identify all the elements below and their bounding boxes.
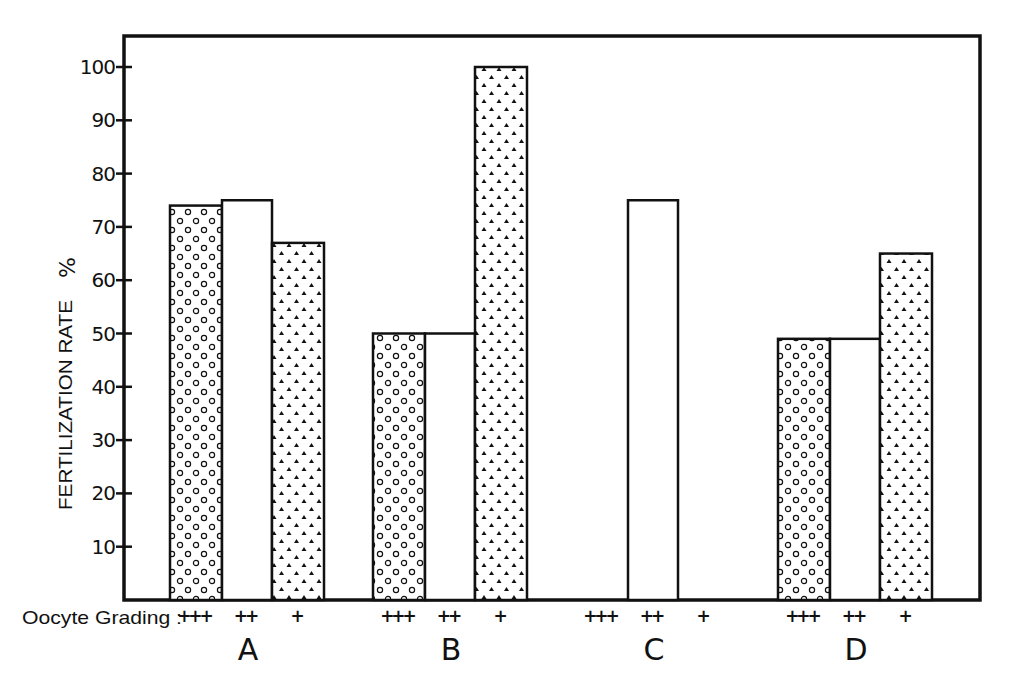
- grade-label: ++: [842, 606, 866, 626]
- x-axis-prefix: Oocyte Grading :: [22, 607, 182, 628]
- y-axis-label: FERTILIZATION RATE%: [55, 257, 80, 510]
- y-tick-label: 60: [92, 268, 116, 292]
- grade-label: +++: [583, 606, 618, 626]
- bar-d-circles: [778, 339, 830, 600]
- grade-label: +: [696, 606, 709, 626]
- bar-a-triangles: [272, 243, 324, 600]
- y-axis-unit: %: [55, 257, 80, 278]
- y-tick-label: 20: [92, 481, 116, 505]
- grade-label: +++: [380, 606, 415, 626]
- grade-label: +++: [177, 606, 212, 626]
- bars: [170, 67, 932, 600]
- y-tick-label: 30: [92, 428, 116, 452]
- bar-a-circles: [170, 206, 222, 600]
- y-tick-label: 70: [92, 215, 116, 239]
- bar-c-blank: [628, 200, 678, 600]
- group-label-c: C: [644, 632, 665, 667]
- y-tick-label: 50: [92, 322, 116, 346]
- y-tick-label: 40: [92, 375, 116, 399]
- grade-label: ++: [437, 606, 461, 626]
- y-tick-label: 10: [92, 535, 116, 559]
- y-tick-label: 100: [80, 55, 115, 79]
- group-label-d: D: [844, 632, 867, 667]
- bar-d-blank: [830, 339, 880, 600]
- bar-b-blank: [425, 334, 475, 601]
- grade-label: +: [290, 606, 303, 626]
- x-axis-labels: Oocyte Grading :++++++A++++++B++++++C+++…: [22, 606, 911, 667]
- bar-b-triangles: [475, 67, 527, 600]
- bar-d-triangles: [880, 254, 932, 600]
- grade-label: +: [898, 606, 911, 626]
- grade-label: ++: [640, 606, 664, 626]
- grade-label: +: [493, 606, 506, 626]
- bar-b-circles: [373, 334, 425, 601]
- group-label-b: B: [441, 632, 462, 667]
- grade-label: ++: [234, 606, 258, 626]
- grade-label: +++: [785, 606, 820, 626]
- bar-a-blank: [222, 200, 272, 600]
- group-label-a: A: [238, 632, 259, 667]
- bar-chart: 102030405060708090100 Oocyte Grading :++…: [0, 0, 1011, 700]
- y-tick-label: 80: [92, 162, 116, 186]
- y-axis-title: FERTILIZATION RATE: [55, 300, 76, 510]
- y-tick-label: 90: [92, 108, 116, 132]
